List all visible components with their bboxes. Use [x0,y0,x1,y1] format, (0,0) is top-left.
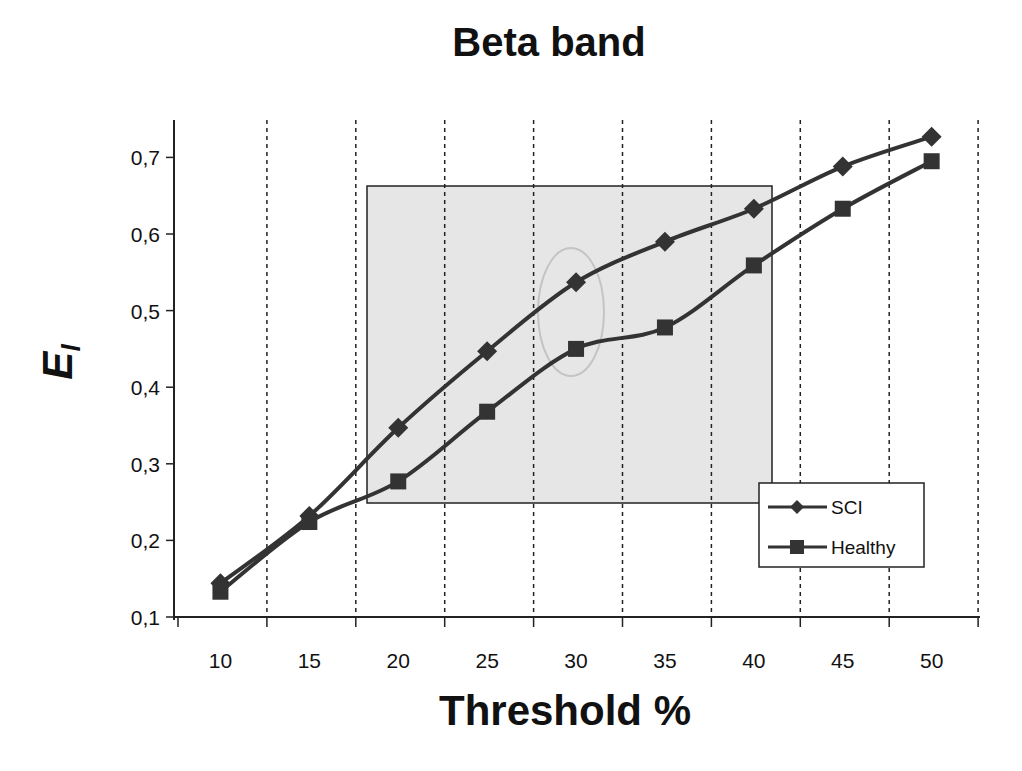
square-marker-icon [924,153,940,169]
y-tick-label: 0,2 [131,529,160,552]
x-tick-label: 50 [920,649,943,672]
square-marker-icon [746,257,762,273]
x-axis-label: Threshold % [439,687,691,734]
diamond-marker-icon [833,157,853,177]
y-tick-label: 0,1 [131,606,160,629]
legend-label-healthy: Healthy [831,537,896,558]
x-tick-label: 45 [831,649,854,672]
square-marker-icon [835,201,851,217]
square-marker-icon [790,540,804,554]
y-tick-label: 0,5 [131,300,160,323]
y-tick-label: 0,7 [131,146,160,169]
x-tick-label: 30 [564,649,587,672]
square-marker-icon [390,473,406,489]
y-tick-label: 0,4 [131,376,161,399]
square-marker-icon [301,514,317,530]
legend-label-sci: SCI [831,497,863,518]
chart: Beta band 0,10,20,30,40,50,60,7 10152025… [0,0,1022,771]
chart-title: Beta band [452,20,645,64]
x-tick-label: 40 [742,649,765,672]
x-tick-label: 35 [653,649,676,672]
x-tick-label: 10 [209,649,232,672]
y-axis-ticks: 0,10,20,30,40,50,60,7 [131,146,174,629]
y-tick-label: 0,6 [131,223,160,246]
square-marker-icon [568,341,584,357]
x-tick-label: 20 [387,649,410,672]
svg-text:El: El [34,344,86,380]
diamond-marker-icon [922,127,942,147]
square-marker-icon [212,584,228,600]
x-tick-label: 25 [475,649,498,672]
x-axis-ticks: 101520253035404550 [178,617,978,672]
legend: SCI Healthy [759,483,924,567]
square-marker-icon [657,319,673,335]
square-marker-icon [479,404,495,420]
x-tick-label: 15 [298,649,321,672]
y-axis-label: El [34,344,86,380]
y-tick-label: 0,3 [131,453,160,476]
